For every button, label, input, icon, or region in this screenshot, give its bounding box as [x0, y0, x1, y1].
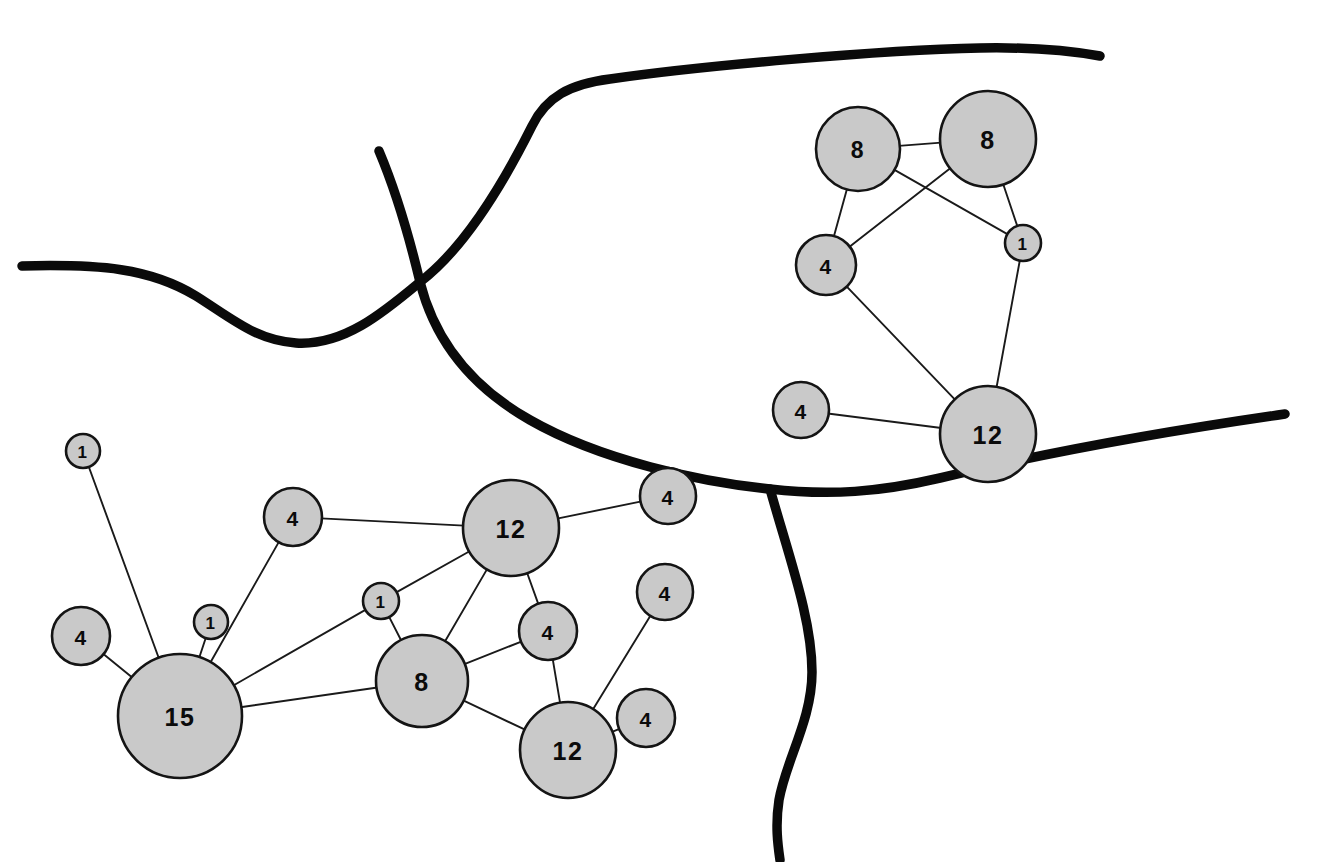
node-ll-1a[interactable]: 1 [66, 434, 100, 468]
node-label-ur-1: 1 [1018, 235, 1029, 254]
node-label-ll-4d: 4 [658, 582, 671, 605]
node-ll-12b[interactable]: 12 [520, 702, 616, 798]
node-label-ur-4a: 4 [819, 255, 832, 278]
west-boundary-curve [22, 266, 420, 344]
diagram-canvas: 88414121412441141584124 [0, 0, 1317, 862]
node-label-ll-1c: 1 [376, 593, 387, 612]
node-label-ll-8: 8 [414, 668, 429, 696]
node-ur-12[interactable]: 12 [940, 386, 1036, 482]
edge-ur-8a-to-ur-8b [899, 143, 941, 146]
node-label-ll-4a: 4 [286, 507, 299, 530]
node-ll-1b[interactable]: 1 [194, 605, 228, 639]
node-ll-12a[interactable]: 12 [463, 480, 559, 576]
edge-ll-4a-to-ll-12a [321, 518, 464, 525]
node-ll-15[interactable]: 15 [118, 654, 242, 778]
edge-ur-4b-to-ur-12 [828, 413, 942, 428]
node-ur-1[interactable]: 1 [1005, 225, 1041, 261]
edge-ll-15-to-ll-1c [233, 609, 366, 685]
node-label-ur-8b: 8 [980, 126, 995, 154]
node-label-ll-1a: 1 [78, 443, 89, 462]
edge-ll-1c-to-ll-8 [389, 616, 402, 641]
edge-ll-15-to-ll-8 [240, 687, 377, 707]
node-ur-8b[interactable]: 8 [940, 91, 1036, 187]
node-ll-4e[interactable]: 4 [519, 602, 577, 660]
node-ll-1c[interactable]: 1 [363, 583, 399, 619]
node-ll-4c[interactable]: 4 [52, 607, 110, 665]
edge-ll-4e-to-ll-12b [553, 659, 561, 704]
node-label-ur-4b: 4 [794, 400, 807, 423]
nodes-layer: 88414121412441141584124 [52, 91, 1041, 798]
node-ur-4a[interactable]: 4 [796, 235, 856, 295]
edge-ll-12a-to-ll-8 [445, 569, 488, 642]
node-label-ll-15: 15 [165, 703, 196, 731]
node-ll-4f[interactable]: 4 [617, 689, 675, 747]
node-label-ll-1b: 1 [206, 614, 217, 633]
edge-ll-8-to-ll-12b [463, 700, 526, 730]
node-label-ll-12a: 12 [496, 515, 527, 543]
edge-ll-12a-to-ll-1c [396, 551, 470, 593]
edge-ur-4a-to-ur-12 [846, 286, 955, 400]
south-east-boundary-curve [379, 151, 1285, 492]
node-label-ur-12: 12 [973, 421, 1004, 449]
node-ll-8[interactable]: 8 [376, 635, 468, 727]
node-ll-4b[interactable]: 4 [640, 468, 696, 524]
edge-ll-12a-to-ll-4b [557, 501, 641, 518]
edge-ur-8a-to-ur-4a [834, 189, 847, 238]
node-label-ll-4c: 4 [74, 626, 87, 649]
node-ll-4d[interactable]: 4 [637, 564, 693, 620]
node-label-ll-4e: 4 [541, 621, 554, 644]
edge-ur-1-to-ur-12 [996, 260, 1019, 388]
node-ur-8a[interactable]: 8 [816, 107, 900, 191]
edge-ll-15-to-ll-4a [210, 541, 279, 663]
node-ur-4b[interactable]: 4 [773, 382, 829, 438]
edge-ll-4c-to-ll-15 [103, 654, 133, 678]
south-descending-boundary-curve [770, 489, 812, 860]
edge-ur-8b-to-ur-1 [1003, 184, 1018, 227]
edge-ll-8-to-ll-4e [464, 641, 522, 664]
edge-ll-1b-to-ll-15 [199, 637, 206, 658]
edge-ll-12a-to-ll-4e [527, 572, 539, 604]
node-label-ll-4b: 4 [661, 486, 674, 509]
node-label-ll-4f: 4 [639, 708, 652, 731]
network-diagram-svg: 88414121412441141584124 [0, 0, 1317, 862]
node-ll-4a[interactable]: 4 [264, 488, 322, 546]
node-label-ll-12b: 12 [553, 737, 584, 765]
node-label-ur-8a: 8 [851, 137, 865, 163]
